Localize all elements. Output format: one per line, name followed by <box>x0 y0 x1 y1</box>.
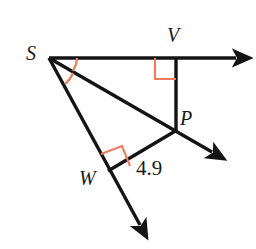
segment-measure-label: 4.9 <box>136 158 162 179</box>
vertex-label-s: S <box>26 43 36 63</box>
geometry-canvas <box>0 0 256 249</box>
geometry-figure: S V P W 4.9 <box>0 0 256 249</box>
vertex-label-w: W <box>79 168 96 188</box>
angle-arc-upper-at-S <box>73 58 77 71</box>
vertex-label-v: V <box>167 25 179 45</box>
angle-arc-lower-at-S <box>65 73 73 84</box>
vertex-label-p: P <box>180 108 192 128</box>
right-angle-mark-at-V <box>155 58 176 79</box>
